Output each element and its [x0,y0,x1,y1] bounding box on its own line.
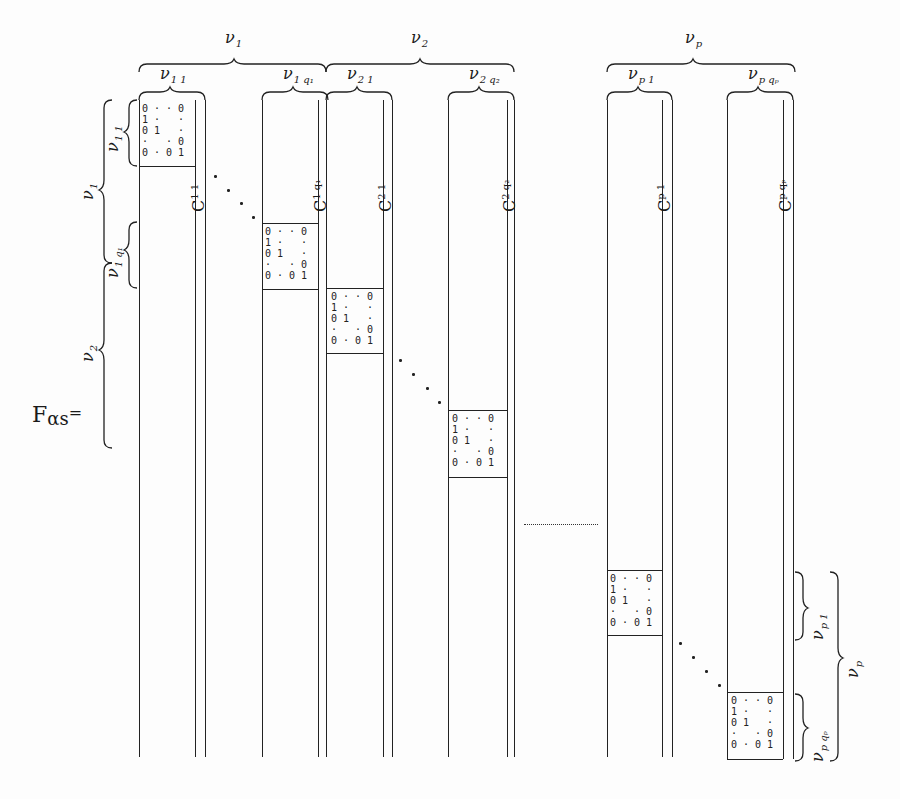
ellipsis-dot [227,189,230,192]
block-bottom-border [262,289,318,290]
top-brace-label-nu1: ν1 [225,30,242,49]
column-border [727,100,728,759]
block-bottom-border [607,635,662,636]
ellipsis-dot [718,684,721,687]
ellipsis-dot [438,401,441,404]
ellipsis-dot [399,359,402,362]
identity-block: 0 · · 01 · ·0 1 ·· · 00 · 0 1 [610,573,652,628]
block-top-border [326,288,383,289]
left-brace-label-nu1q1: ν1 q₁ [105,247,124,278]
ellipsis-dot [679,642,682,645]
column-border [139,100,140,757]
top-brace-label-nu2: ν2 [411,30,428,49]
column-brace-label: νp qₚ [748,66,779,85]
identity-block: 0 · · 01 · ·0 1 ·· · 00 · 0 1 [452,413,494,468]
column-label-cpqp: Cp qₚ [777,180,794,212]
column-label-cp1: Cp 1 [656,184,673,212]
ellipsis-dot [705,670,708,673]
column-border [262,100,263,757]
block-bottom-border [727,759,783,760]
block-bottom-border [326,353,383,354]
column-label-c2q2: C2 q₂ [501,180,518,212]
left-brace-label-nu1: ν1 [80,183,99,200]
ellipsis-dot [252,216,255,219]
ellipsis-dot [240,202,243,205]
right-brace-label-nup1: νp 1 [810,613,829,640]
column-brace-label: ν2 1 [347,66,374,85]
block-top-border [727,692,783,693]
identity-block: 0 · · 01 · ·0 1 ·· · 00 · 0 1 [331,291,373,346]
column-border [607,100,608,757]
column-brace-label: ν1 1 [160,66,187,85]
block-top-border [607,570,662,571]
block-top-border [448,410,507,411]
block-bottom-border [139,166,195,167]
column-border [448,100,449,757]
brace-and-border-layer [0,0,900,799]
identity-block: 0 · · 01 · ·0 1 ·· · 00 · 0 1 [265,226,307,281]
identity-block: 0 · · 01 · ·0 1 ·· · 00 · 0 1 [142,103,184,158]
ellipsis-dot [214,175,217,178]
ellipsis-dot [426,387,429,390]
block-matrix-diagram: ν1 ν2 νp ν1 1 ν1 q₁ ν2 1 ν2 q₂ νp 1 νp q… [0,0,900,799]
column-label-c1q1: C1 q₁ [312,180,329,212]
column-brace-label: νp 1 [628,66,655,85]
horizontal-ellipsis [524,524,598,525]
column-label-c11: C1 1 [190,184,207,212]
left-brace-label-nu11: ν1 1 [105,125,124,152]
block-bottom-border [448,477,507,478]
ellipsis-dot [692,656,695,659]
block-top-border [262,223,318,224]
column-brace-label: ν1 q₁ [283,66,314,85]
column-brace-label: ν2 q₂ [469,66,500,85]
top-brace-label-nup: νp [685,30,702,49]
left-brace-label-nu2: ν2 [80,345,99,362]
column-label-c21: C2 1 [377,184,394,212]
identity-block: 0 · · 01 · ·0 1 ·· · 00 · 0 1 [731,695,773,750]
right-brace-label-nupqp: νp qₚ [810,731,829,762]
right-brace-label-nup: νp [845,661,864,678]
formula-lhs: Fαs= [32,404,82,428]
ellipsis-dot [412,373,415,376]
